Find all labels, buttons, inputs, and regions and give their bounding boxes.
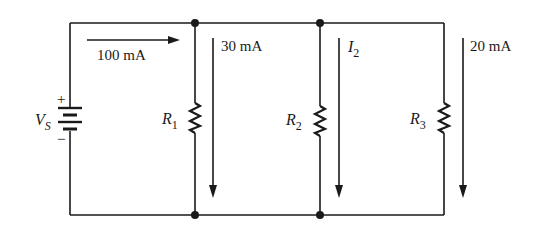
arrow-total-current-icon [87,36,180,44]
resistor-r2-label: R2 [285,111,302,133]
circuit-diagram: 100 mA 30 mA 20 mA I2 + − VS R1 R2 R3 [0,0,546,233]
total-current-label: 100 mA [97,47,146,63]
branch-2-current-label: I2 [347,38,359,60]
branch-3-current-label: 20 mA [470,38,511,54]
source-minus-sign: − [57,131,65,147]
resistor-r3-icon [439,103,449,133]
resistor-r1-icon [190,103,200,133]
node-dot [316,19,324,27]
source-plus-sign: + [57,91,65,107]
battery-icon [58,108,82,129]
node-dot [191,211,199,219]
resistor-r2-icon [315,106,325,136]
arrow-branch-1-current-icon [209,38,217,198]
node-dot [191,19,199,27]
arrow-branch-3-current-icon [459,38,467,198]
resistor-r3-label: R3 [409,110,426,132]
source-label: VS [35,111,51,133]
branch-1-current-label: 30 mA [221,38,262,54]
node-dot [316,211,324,219]
arrow-branch-2-current-icon [335,38,343,198]
resistor-r1-label: R1 [161,110,178,132]
